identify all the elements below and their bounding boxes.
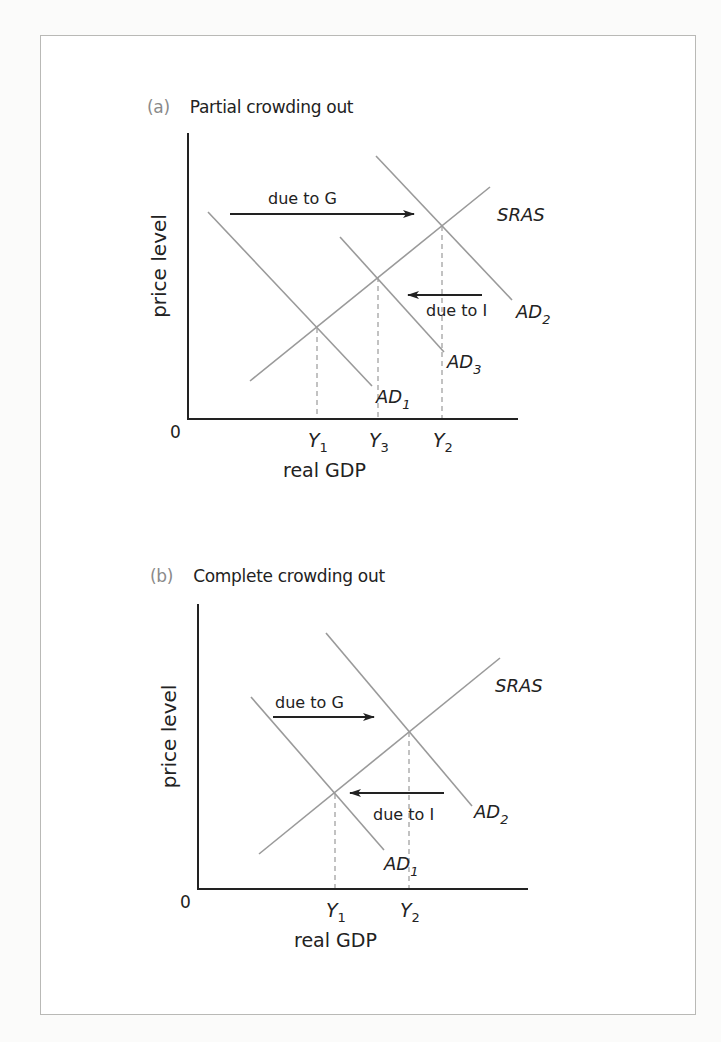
curve-label-sras: SRAS bbox=[495, 675, 543, 696]
crowding-out-diagrams: SRASAD1AD2AD30price levelY1Y3Y2real GDPd… bbox=[0, 0, 721, 1042]
curve-label-ad1: AD1 bbox=[383, 853, 418, 879]
curve-ad1 bbox=[208, 212, 372, 386]
curve-ad2 bbox=[326, 633, 472, 806]
curve-ad1 bbox=[251, 697, 384, 850]
axes bbox=[188, 133, 518, 419]
y-axis-label: price level bbox=[147, 214, 171, 318]
shift-arrow-label: due to I bbox=[426, 301, 487, 320]
curve-ad2 bbox=[376, 156, 512, 300]
curve-label-ad2: AD2 bbox=[515, 301, 550, 327]
y-axis-label: price level bbox=[157, 685, 181, 789]
origin-label: 0 bbox=[180, 892, 191, 912]
x-tick-label: Y1 bbox=[326, 899, 346, 925]
panel-a-chart: SRASAD1AD2AD30price levelY1Y3Y2real GDPd… bbox=[147, 133, 550, 481]
panel-b-chart: SRASAD1AD20price levelY1Y2real GDPdue to… bbox=[157, 604, 543, 951]
axes bbox=[198, 604, 528, 889]
x-tick-label: Y3 bbox=[369, 429, 389, 455]
curve-sras bbox=[259, 658, 500, 854]
x-axis-label: real GDP bbox=[294, 929, 377, 951]
shift-arrow-label: due to G bbox=[275, 693, 344, 712]
curve-label-ad2: AD2 bbox=[473, 801, 508, 827]
curve-label-sras: SRAS bbox=[497, 204, 545, 225]
x-tick-label: Y1 bbox=[308, 429, 328, 455]
x-tick-label: Y2 bbox=[400, 899, 420, 925]
origin-label: 0 bbox=[170, 422, 181, 442]
x-axis-label: real GDP bbox=[283, 459, 366, 481]
x-tick-label: Y2 bbox=[433, 429, 453, 455]
curve-label-ad3: AD3 bbox=[446, 351, 481, 377]
cropped-caption bbox=[40, 1030, 680, 1042]
curve-label-ad1: AD1 bbox=[375, 386, 410, 412]
shift-arrow-label: due to G bbox=[268, 189, 337, 208]
shift-arrow-label: due to I bbox=[373, 805, 434, 824]
